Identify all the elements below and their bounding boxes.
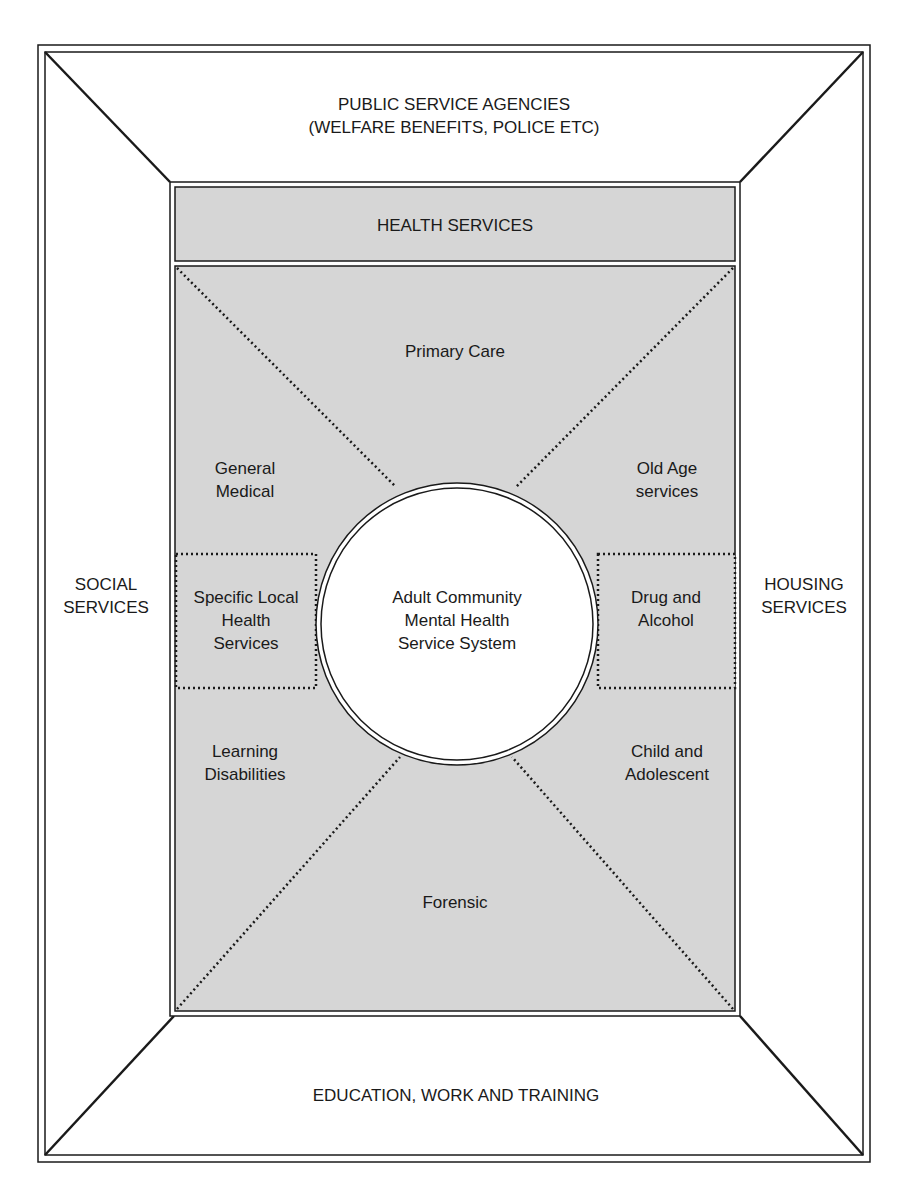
label-education-work-training: EDUCATION, WORK AND TRAINING xyxy=(313,1084,600,1107)
label-public-service-agencies: PUBLIC SERVICE AGENCIES (WELFARE BENEFIT… xyxy=(309,93,600,139)
label-general-medical: General Medical xyxy=(215,457,275,503)
diagonal-bottom-left xyxy=(45,1016,174,1155)
label-old-age-services: Old Age services xyxy=(636,457,698,503)
label-adult-community-mental-health: Adult Community Mental Health Service Sy… xyxy=(392,586,521,655)
label-primary-care: Primary Care xyxy=(405,340,505,363)
label-health-services: HEALTH SERVICES xyxy=(377,214,533,237)
label-forensic: Forensic xyxy=(422,891,487,914)
diagonal-top-left xyxy=(45,52,170,182)
diagonal-bottom-right xyxy=(740,1016,863,1155)
label-learning-disabilities: Learning Disabilities xyxy=(204,740,285,786)
diagonal-top-right xyxy=(740,52,863,182)
label-drug-and-alcohol: Drug and Alcohol xyxy=(631,586,701,632)
label-child-and-adolescent: Child and Adolescent xyxy=(625,740,709,786)
label-housing-services: HOUSING SERVICES xyxy=(761,573,847,619)
label-specific-local-health-services: Specific Local Health Services xyxy=(194,586,299,655)
label-social-services: SOCIAL SERVICES xyxy=(63,573,149,619)
